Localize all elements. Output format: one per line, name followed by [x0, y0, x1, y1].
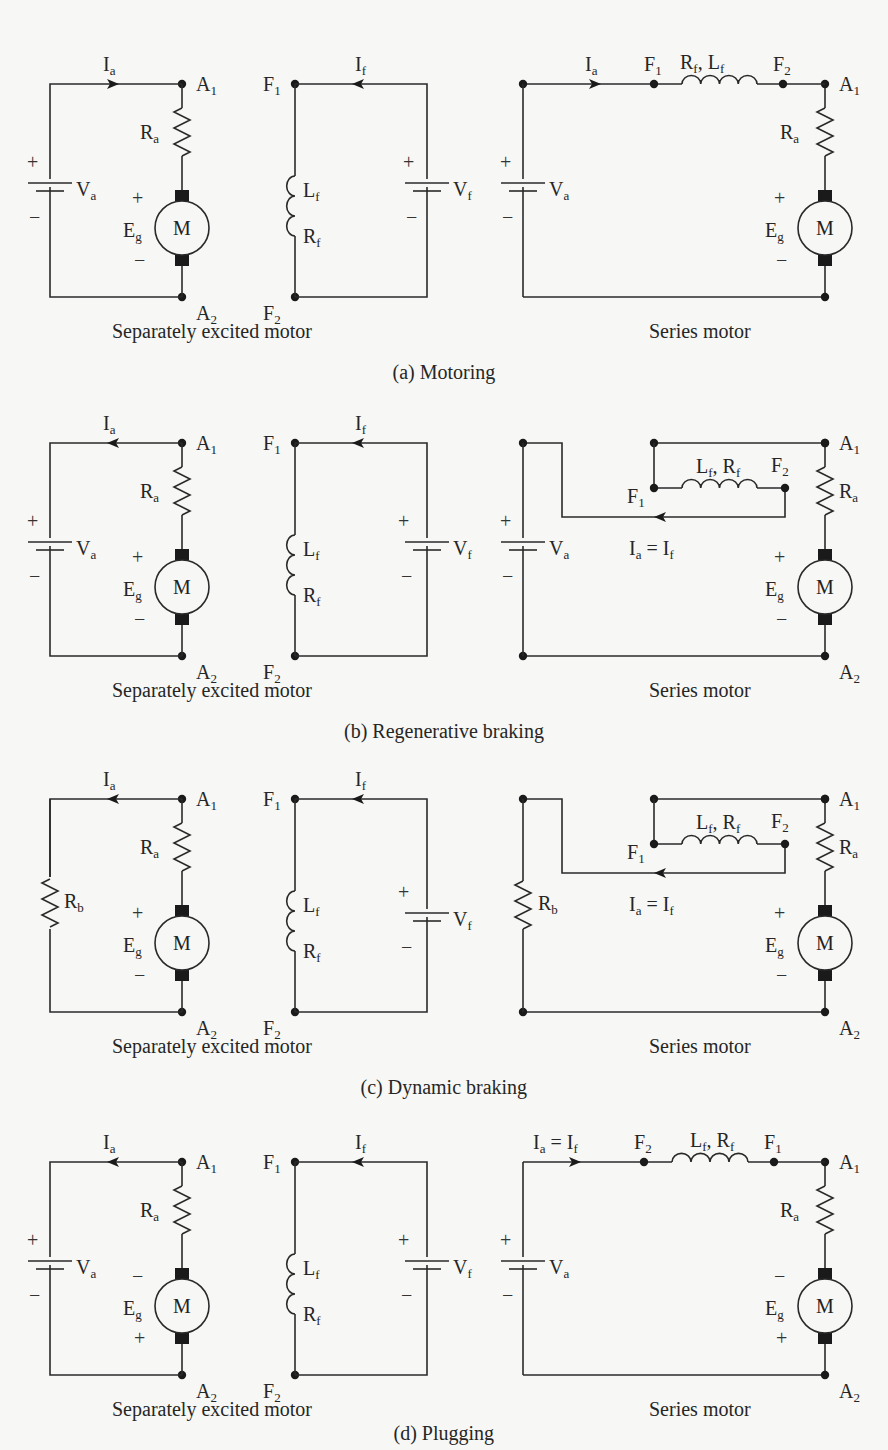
eg-polarity-top: + [774, 547, 785, 567]
battery-minus-sign: − [29, 566, 40, 586]
wire [654, 443, 682, 488]
Va-label: Va [549, 538, 569, 561]
terminal-F1-label: F1 [263, 433, 281, 456]
terminal-A2 [821, 1371, 829, 1379]
series-field-coil-icon [682, 75, 757, 84]
Lf-label: Lf [303, 180, 320, 203]
battery-minus-sign: − [29, 207, 40, 227]
brush-bottom-icon [175, 970, 189, 981]
brush-bottom-icon [175, 255, 189, 266]
Vf-label: Vf [453, 538, 472, 561]
terminal-A2 [821, 293, 829, 301]
Eg-label: Eg [765, 579, 784, 602]
eg-polarity-bottom: − [776, 250, 787, 270]
eg-polarity-bottom: − [776, 609, 787, 629]
Vf-label: Vf [453, 1257, 472, 1280]
field-battery-minus-sign: − [401, 1285, 412, 1305]
terminal-A2-label: A2 [839, 1381, 860, 1404]
eg-polarity-top: + [132, 903, 143, 923]
series-field-coil-icon [682, 479, 757, 488]
panel-caption-a: (a) Motoring [393, 362, 496, 382]
motor-label: M [167, 218, 197, 238]
field-current-label: If [355, 1132, 366, 1155]
Ra-label: Ra [780, 1200, 799, 1223]
current-label: Ia = If [533, 1132, 578, 1155]
battery-minus-sign: − [502, 207, 513, 227]
Eg-label: Eg [765, 1298, 784, 1321]
terminal-F1-label: F1 [627, 842, 645, 865]
motor-label: M [810, 1296, 840, 1316]
Va-label: Va [76, 179, 96, 202]
terminal-F1 [650, 840, 658, 848]
eg-polarity-top: + [774, 188, 785, 208]
field-inductor-icon [287, 1254, 295, 1314]
Ra-label: Ra [780, 122, 799, 145]
terminal-F2-label: F2 [771, 811, 789, 834]
Rf-label: Rf [303, 1304, 321, 1327]
Eg-label: Eg [123, 1298, 142, 1321]
Vf-label: Vf [453, 909, 472, 932]
field-battery-plus-sign: + [403, 152, 414, 172]
terminal-F1-label: F1 [263, 1152, 281, 1175]
terminal-F1-label: F1 [644, 54, 662, 77]
field-inductor-icon [287, 891, 295, 951]
separately-excited-title: Separately excited motor [112, 1036, 312, 1056]
field-battery-plus-sign: + [398, 1230, 409, 1250]
terminal-F2-label: F2 [773, 54, 791, 77]
eg-polarity-bottom: − [134, 965, 145, 985]
terminal-F1 [770, 1158, 778, 1166]
Eg-label: Eg [765, 220, 784, 243]
terminal-F2 [640, 1158, 648, 1166]
armature-resistor-icon [817, 108, 833, 156]
field-current-label: If [355, 54, 366, 77]
brush-top-icon [175, 1268, 189, 1279]
Va-label: Va [549, 179, 569, 202]
terminal-A1-label: A1 [839, 1152, 860, 1175]
armature-loop-wire [50, 443, 182, 656]
battery-plus-sign: + [500, 152, 511, 172]
armature-loop-wire [50, 1162, 182, 1375]
brush-bottom-icon [175, 614, 189, 625]
battery-minus-sign: − [502, 566, 513, 586]
terminal-A1 [821, 439, 829, 447]
field-coil-label: Lf, Rf [690, 1130, 734, 1153]
panel-caption-d: (d) Plugging [394, 1423, 495, 1443]
battery-plus-sign: + [27, 1230, 38, 1250]
eg-polarity-bottom: + [134, 1328, 145, 1348]
field-battery-minus-sign: − [401, 937, 412, 957]
brush-bottom-icon [818, 1333, 832, 1344]
Ra-label: Ra [140, 122, 159, 145]
terminal-F1-label: F1 [764, 1132, 782, 1155]
series-motor-title: Series motor [649, 321, 751, 341]
terminal-A1 [821, 795, 829, 803]
Lf-label: Lf [303, 539, 320, 562]
armature-current-label: Ia [103, 1132, 115, 1155]
field-battery-minus-sign: − [406, 207, 417, 227]
wire [654, 799, 682, 844]
separately-excited-title: Separately excited motor [112, 1399, 312, 1419]
battery-plus-sign: + [27, 152, 38, 172]
armature-resistor-icon [174, 108, 190, 156]
Rf-label: Rf [303, 226, 321, 249]
motor-label: M [810, 577, 840, 597]
terminal-A1-label: A1 [839, 74, 860, 97]
eg-polarity-bottom: − [134, 609, 145, 629]
field-inductor-icon [287, 176, 295, 236]
terminal-A1-label: A1 [196, 789, 217, 812]
Lf-label: Lf [303, 895, 320, 918]
brush-top-icon [175, 549, 189, 560]
battery-minus-sign: − [29, 1285, 40, 1305]
Ra-label: Ra [140, 1200, 159, 1223]
terminal-A2 [821, 652, 829, 660]
terminal-F2 [781, 484, 789, 492]
Ra-label: Ra [140, 481, 159, 504]
armature-current-label: Ia [103, 54, 115, 77]
Eg-label: Eg [123, 579, 142, 602]
terminal-F1-label: F1 [627, 486, 645, 509]
Rb-label: Rb [538, 893, 558, 916]
armature-current-label: Ia [103, 413, 115, 436]
Va-label: Va [549, 1257, 569, 1280]
terminal-A2 [821, 1008, 829, 1016]
brush-top-icon [818, 190, 832, 201]
motor-label: M [167, 1296, 197, 1316]
